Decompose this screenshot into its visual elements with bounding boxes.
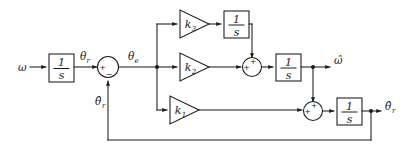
diagram-svg: ω 1 s θ r + − θ e bbox=[0, 0, 406, 151]
gain-k1-subscript: 1 bbox=[182, 111, 186, 119]
top-integrator-block: 1 s bbox=[224, 11, 249, 39]
omega-hat-output-group: ω̂ bbox=[301, 54, 343, 102]
input-integrator-block: 1 s bbox=[49, 54, 74, 82]
top-integrator-numerator: 1 bbox=[233, 13, 240, 26]
output-label-theta-r-hat: θ̂ bbox=[385, 100, 392, 112]
bottom-integrator-numerator: 1 bbox=[346, 100, 353, 113]
output-label-theta-r-hat-subscript: r bbox=[392, 107, 396, 115]
omega-sum-top-plus: + bbox=[250, 57, 257, 66]
gain-k3-subscript: 3 bbox=[192, 25, 197, 33]
gain-k2-subscript: 2 bbox=[191, 68, 197, 76]
block-diagram-canvas: ω 1 s θ r + − θ e bbox=[0, 0, 406, 151]
feedback-label-theta-r-hat: θ̂ bbox=[95, 95, 102, 107]
feedback-label-theta-r-hat-subscript: r bbox=[102, 102, 106, 110]
middle-integrator-numerator: 1 bbox=[285, 56, 292, 69]
theta-summing-junction: + + bbox=[304, 101, 335, 121]
signal-label-theta-e-subscript: e bbox=[135, 57, 139, 65]
top-integrator-denominator: s bbox=[234, 26, 240, 39]
theta-r-hat-output-group: θ̂ r bbox=[362, 100, 396, 115]
input-label-omega: ω bbox=[18, 61, 27, 73]
bottom-integrator-block: 1 s bbox=[337, 98, 362, 126]
gain-k3-label: k bbox=[185, 18, 192, 31]
gain-k2-block: k 2 bbox=[180, 53, 241, 81]
error-summing-junction: + − bbox=[98, 57, 119, 79]
middle-integrator-block: 1 s bbox=[276, 54, 301, 82]
input-integrator-denominator: s bbox=[59, 69, 65, 82]
output-label-omega-hat: ω̂ bbox=[334, 54, 343, 66]
gain-k2-label: k bbox=[185, 61, 192, 74]
input-signal-group: ω bbox=[18, 61, 46, 73]
error-sum-minus-sign: − bbox=[106, 70, 113, 79]
input-integrator-numerator: 1 bbox=[58, 56, 65, 69]
theta-sum-top-plus: + bbox=[311, 101, 318, 110]
middle-integrator-denominator: s bbox=[286, 69, 292, 82]
signal-label-theta-r-subscript: r bbox=[87, 57, 91, 65]
gain-k1-block: k 1 bbox=[170, 96, 302, 124]
omega-summing-junction: + + bbox=[243, 57, 274, 77]
theta-e-signal-group: θ e bbox=[119, 24, 178, 110]
gain-k3-block: k 3 bbox=[180, 10, 221, 38]
gain-k1-label: k bbox=[175, 104, 182, 117]
bottom-integrator-denominator: s bbox=[347, 113, 353, 126]
theta-r-signal-group: θ r bbox=[74, 50, 97, 67]
